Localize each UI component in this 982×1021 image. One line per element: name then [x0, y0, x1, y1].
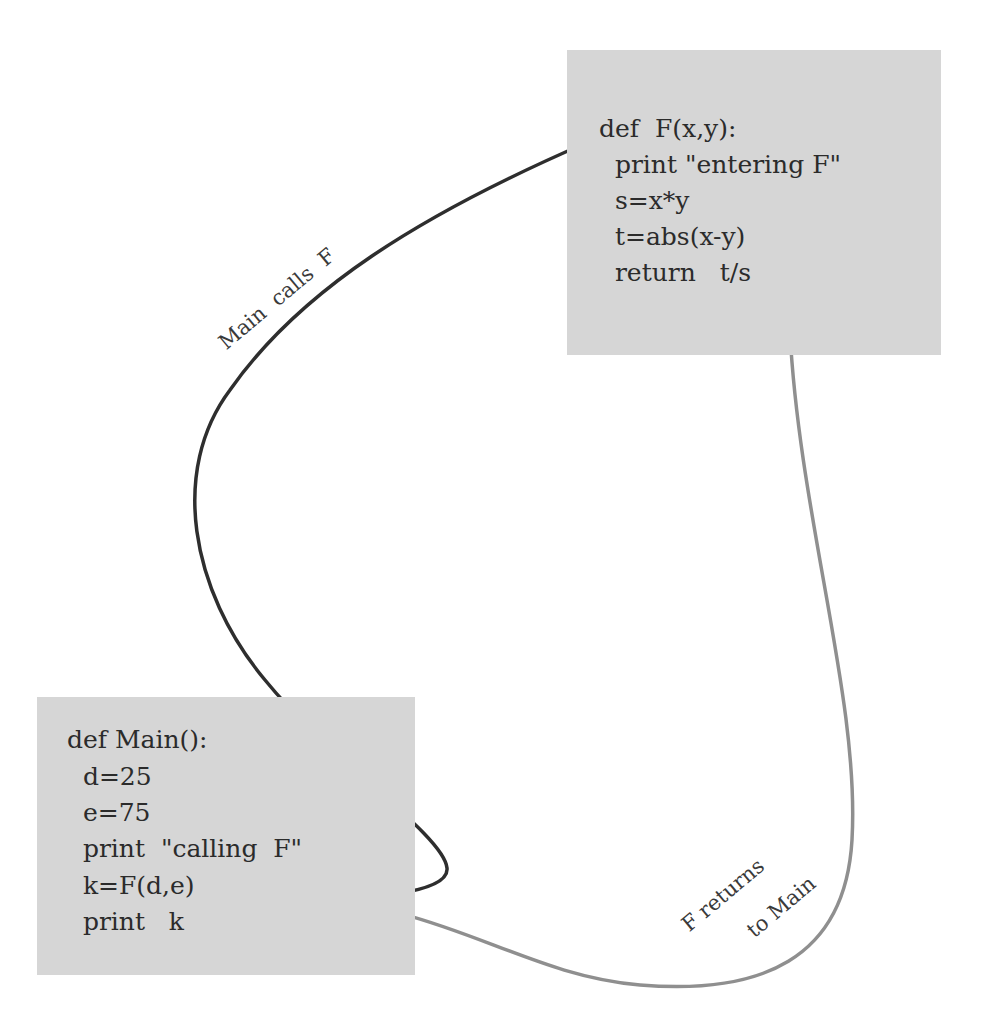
code-line: print k — [67, 907, 184, 937]
code-line: def Main(): — [67, 725, 208, 755]
code-line: k=F(d,e) — [67, 871, 195, 901]
call-edge-label: Main calls F — [214, 243, 340, 354]
code-line: print "calling F" — [67, 834, 302, 864]
code-line: s=x*y — [599, 186, 689, 216]
code-line: return t/s — [599, 258, 751, 288]
function-main-box: def Main(): d=25 e=75 print "calling F" … — [37, 697, 415, 975]
function-f-box: def F(x,y): print "entering F" s=x*y t=a… — [567, 50, 941, 355]
code-line: def F(x,y): — [599, 114, 736, 144]
code-line: e=75 — [67, 798, 150, 828]
code-line: t=abs(x-y) — [599, 222, 745, 252]
code-line: d=25 — [67, 762, 152, 792]
code-line: print "entering F" — [599, 150, 841, 180]
